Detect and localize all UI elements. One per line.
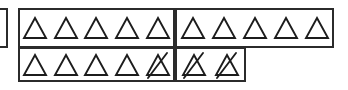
triangle-counter[interactable] (53, 15, 79, 41)
top-right-box[interactable] (175, 8, 334, 48)
triangle-icon (244, 18, 266, 38)
triangle-counter[interactable] (211, 15, 237, 41)
triangle-icon (182, 18, 204, 38)
triangle-counter[interactable] (53, 52, 79, 78)
triangle-counter[interactable] (83, 15, 109, 41)
bottom-right-box[interactable] (175, 47, 246, 82)
triangle-icon (85, 18, 107, 38)
triangle-counter[interactable] (145, 15, 171, 41)
triangle-counter[interactable] (242, 15, 268, 41)
triangle-counter[interactable] (114, 15, 140, 41)
triangle-icon (213, 18, 235, 38)
triangle-counter[interactable] (22, 52, 48, 78)
triangle-counter[interactable] (273, 15, 299, 41)
triangle-icon (275, 18, 297, 38)
triangle-counter[interactable] (304, 15, 330, 41)
triangle-icon (55, 18, 77, 38)
triangle-icon (306, 18, 328, 38)
diagram-canvas (0, 0, 348, 90)
triangle-icon (147, 18, 169, 38)
cut-off-box-fragment (0, 8, 8, 48)
triangle-icon (85, 55, 107, 75)
triangle-icon (24, 18, 46, 38)
triangle-counter[interactable] (180, 15, 206, 41)
triangle-icon (55, 55, 77, 75)
top-left-box[interactable] (18, 8, 175, 48)
bottom-left-box[interactable] (18, 47, 175, 82)
crossed-triangle-counter[interactable] (181, 52, 207, 78)
triangle-counter[interactable] (114, 52, 140, 78)
triangle-counter[interactable] (22, 15, 48, 41)
triangle-icon (116, 55, 138, 75)
triangle-counter[interactable] (83, 52, 109, 78)
crossed-triangle-counter[interactable] (214, 52, 240, 78)
triangle-icon (24, 55, 46, 75)
crossed-triangle-counter[interactable] (145, 52, 171, 78)
triangle-icon (116, 18, 138, 38)
